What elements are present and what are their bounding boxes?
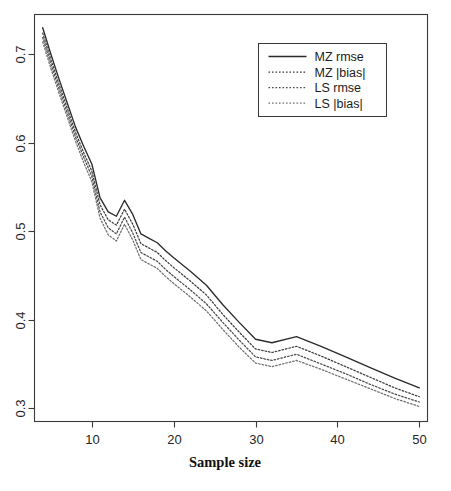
x-axis-ticks: 1020304050 xyxy=(85,422,426,447)
legend-label: MZ |bias| xyxy=(315,66,366,80)
y-tick-label: 0.6 xyxy=(13,134,28,152)
x-tick-label: 40 xyxy=(330,432,344,447)
y-tick-label: 0.3 xyxy=(13,399,28,417)
y-axis-ticks: 0.30.40.50.60.7 xyxy=(13,45,35,417)
x-axis-title: Sample size xyxy=(189,454,262,470)
figure-container: 1020304050 0.30.40.50.60.7 MZ rmseMZ |bi… xyxy=(0,0,451,491)
line-chart: 1020304050 0.30.40.50.60.7 MZ rmseMZ |bi… xyxy=(0,0,451,491)
y-tick-label: 0.7 xyxy=(13,45,28,63)
x-tick-label: 50 xyxy=(412,432,426,447)
x-tick-label: 30 xyxy=(249,432,263,447)
x-tick-label: 20 xyxy=(167,432,181,447)
legend-label: MZ rmse xyxy=(315,50,364,64)
chart-legend: MZ rmseMZ |bias|LS rmseLS |bias| xyxy=(259,44,387,117)
legend-label: LS |bias| xyxy=(315,97,363,111)
legend-label: LS rmse xyxy=(315,81,362,95)
x-tick-label: 10 xyxy=(85,432,99,447)
y-tick-label: 0.4 xyxy=(13,311,28,329)
y-tick-label: 0.5 xyxy=(13,222,28,240)
